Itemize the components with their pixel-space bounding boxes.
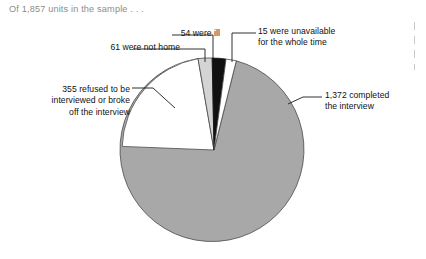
label-ill: 54 were ill [80,28,220,39]
label-ill-line1: 54 were ill [80,28,220,39]
label-completed-line1: 1,372 completed [325,90,425,101]
scan-artifact-mark [414,36,415,44]
label-refused-line3: off the interview [10,107,130,118]
label-refused-line2: interviewed or broke [10,95,130,106]
pie-chart-figure: Of 1,857 units in the sample . . . 355 r… [0,0,426,259]
pie-slices [120,58,304,242]
leader-line-unavailable [232,33,256,62]
label-unavailable: 15 were unavailable for the whole time [258,26,408,49]
label-not-home-line1: 61 were not home [20,42,180,53]
label-refused: 355 refused to be interviewed or broke o… [10,84,130,118]
label-completed-line2: the interview [325,101,425,112]
scan-artifact-mark [414,64,415,70]
label-not-home: 61 were not home [20,42,180,53]
leader-line-completed [288,97,322,104]
scan-artifact-mark [414,50,415,58]
label-refused-line1: 355 refused to be [10,84,130,95]
label-unavailable-line2: for the whole time [258,37,408,48]
label-completed: 1,372 completed the interview [325,90,425,113]
label-unavailable-line1: 15 were unavailable [258,26,408,37]
scan-artifact-mark [414,22,415,30]
